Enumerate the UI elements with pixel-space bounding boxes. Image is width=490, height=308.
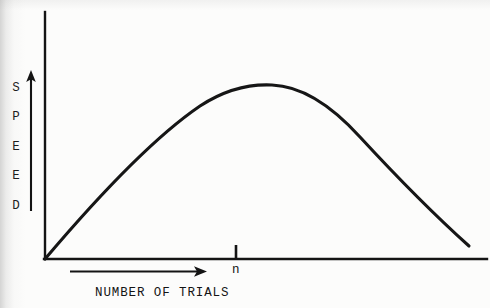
graph-canvas [0,0,490,308]
y-axis-title: S P E E D [7,82,25,212]
y-axis-letter-e2: E [12,170,20,183]
y-axis-letter-p: P [12,111,20,124]
y-axis-letter-d: D [12,200,20,213]
performance-curve-figure: S P E E D n NUMBER OF TRIALS [0,0,490,308]
x-axis-tick-label-n: n [232,263,240,277]
y-axis-letter-e1: E [12,141,20,154]
speed-curve [45,85,469,259]
x-axis-title: NUMBER OF TRIALS [95,286,229,300]
y-axis-letter-s: S [12,82,20,95]
